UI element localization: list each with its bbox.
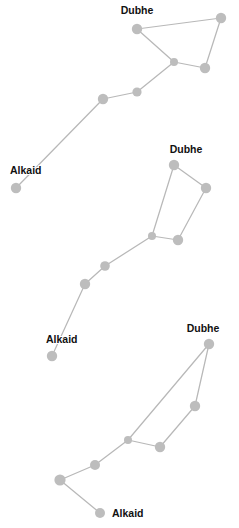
star-node[interactable] (173, 235, 183, 245)
star-node[interactable] (148, 232, 156, 240)
star-node[interactable] (132, 87, 141, 96)
star-node-alkaid[interactable] (11, 183, 21, 193)
star-node[interactable] (200, 63, 210, 73)
constellation-edge (52, 284, 85, 356)
star-node[interactable] (170, 58, 178, 66)
constellation-middle-edges (52, 165, 206, 356)
star-label-alkaid: Alkaid (46, 333, 78, 345)
star-label-dubhe: Dubhe (170, 143, 203, 155)
star-node-dubhe[interactable] (169, 160, 179, 170)
labels-layer: DubheAlkaidDubheAlkaidDubheAlkaid (10, 4, 219, 519)
constellation-edge (137, 18, 221, 29)
constellation-edge (128, 344, 209, 440)
star-node[interactable] (124, 436, 132, 444)
star-label-alkaid: Alkaid (10, 164, 42, 176)
star-node[interactable] (216, 13, 226, 23)
star-node[interactable] (54, 474, 65, 485)
star-node[interactable] (100, 261, 110, 271)
constellation-edge (60, 465, 95, 480)
constellation-edge (174, 165, 206, 188)
nodes-layer (11, 13, 226, 518)
constellation-edge (152, 165, 174, 236)
star-node-alkaid[interactable] (47, 351, 57, 361)
constellation-edge (205, 18, 221, 68)
star-label-dubhe: Dubhe (187, 322, 220, 334)
constellation-edge (105, 236, 152, 266)
constellation-edge (195, 344, 209, 406)
star-node-dubhe[interactable] (204, 339, 214, 349)
star-node[interactable] (80, 279, 90, 289)
constellation-top-edges (16, 18, 221, 188)
star-node[interactable] (155, 442, 165, 452)
star-node[interactable] (90, 460, 100, 470)
star-node[interactable] (98, 94, 108, 104)
constellation-edge (137, 29, 174, 62)
star-node-dubhe[interactable] (132, 24, 142, 34)
constellation-edge (160, 406, 195, 447)
star-node[interactable] (201, 183, 211, 193)
constellation-diagram: DubheAlkaidDubheAlkaidDubheAlkaid (0, 0, 239, 528)
constellation-top-stars (11, 13, 226, 193)
constellation-edge (137, 62, 174, 92)
star-label-dubhe: Dubhe (121, 4, 154, 16)
constellation-edge (60, 480, 100, 513)
diagram-canvas: DubheAlkaidDubheAlkaidDubheAlkaid (0, 0, 239, 528)
star-node-alkaid[interactable] (95, 508, 105, 518)
constellation-bottom-edges (60, 344, 209, 513)
edges-layer (16, 18, 221, 513)
star-label-alkaid: Alkaid (112, 507, 144, 519)
constellation-edge (103, 92, 137, 99)
star-node[interactable] (190, 401, 200, 411)
constellation-edge (178, 188, 206, 240)
constellation-edge (95, 440, 128, 465)
